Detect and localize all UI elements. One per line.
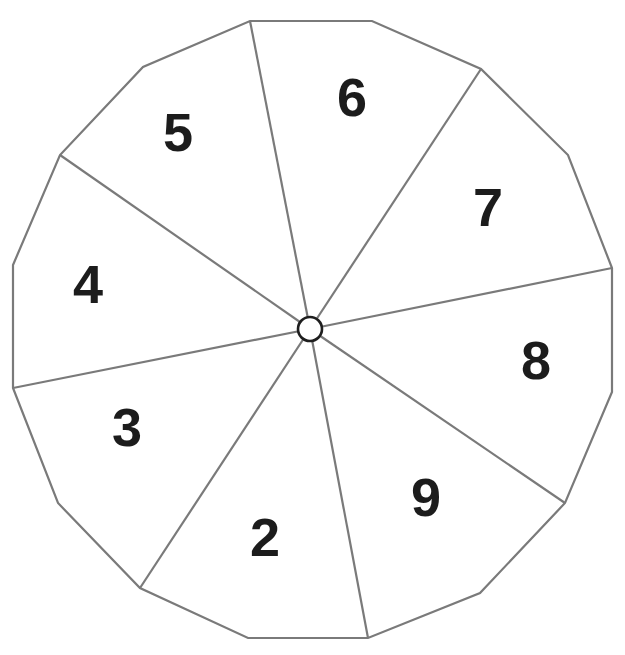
sector-label-8: 8 bbox=[521, 330, 551, 390]
sector-label-5: 5 bbox=[163, 102, 193, 162]
center-hub bbox=[298, 317, 322, 341]
sector-label-3: 3 bbox=[112, 397, 142, 457]
sector-label-7: 7 bbox=[473, 177, 503, 237]
sector-label-9: 9 bbox=[411, 467, 441, 527]
spinner-diagram: 6 7 8 9 2 3 4 5 bbox=[0, 0, 625, 655]
sector-label-2: 2 bbox=[250, 507, 280, 567]
sector-label-4: 4 bbox=[73, 254, 103, 314]
sector-label-6: 6 bbox=[337, 67, 367, 127]
